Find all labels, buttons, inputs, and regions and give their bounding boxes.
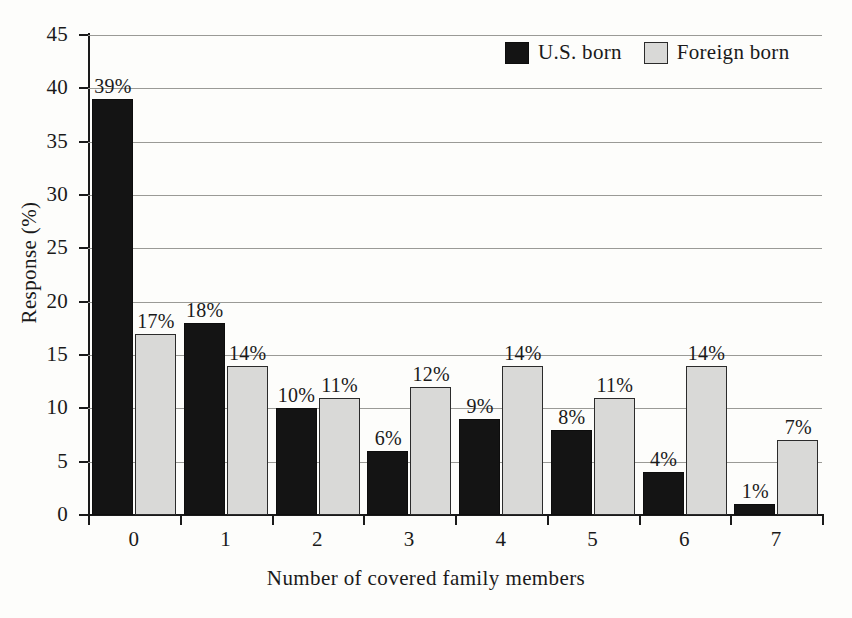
bar-foreign-born	[227, 366, 268, 515]
y-tick-mark	[79, 461, 88, 463]
x-tick-label: 7	[730, 527, 822, 552]
bar-us-born	[643, 472, 684, 515]
y-tick-label: 5	[8, 451, 68, 472]
y-tick-mark	[79, 247, 88, 249]
plot-area: 39%17%18%14%10%11%6%12%9%14%8%11%4%14%1%…	[88, 35, 822, 515]
y-tick-label: 40	[8, 77, 68, 98]
bar-value-label: 7%	[767, 417, 829, 437]
bar-us-born	[734, 504, 775, 515]
bar-value-label: 11%	[309, 375, 371, 395]
y-tick-label: 20	[8, 291, 68, 312]
bar-value-label: 14%	[676, 343, 738, 363]
bar-group: 4%14%	[639, 35, 731, 515]
bar-group: 9%14%	[455, 35, 547, 515]
bar-foreign-born	[135, 334, 176, 515]
x-tick-mark	[272, 516, 274, 525]
bar-group: 10%11%	[272, 35, 364, 515]
bar-foreign-born	[686, 366, 727, 515]
y-tick-label: 30	[8, 184, 68, 205]
bar-value-label: 18%	[174, 300, 236, 320]
y-tick-mark	[79, 194, 88, 196]
y-tick-label: 45	[8, 24, 68, 45]
bar-chart-figure: U.S. born Foreign born Response (%) Numb…	[0, 0, 852, 618]
y-tick-label: 10	[8, 397, 68, 418]
x-tick-mark	[88, 516, 90, 525]
x-tick-label: 4	[455, 527, 547, 552]
x-tick-label: 3	[363, 527, 455, 552]
bar-foreign-born	[594, 398, 635, 515]
y-axis-title: Response (%)	[17, 148, 42, 378]
bar-group: 1%7%	[730, 35, 822, 515]
y-tick-mark	[79, 354, 88, 356]
x-tick-label: 5	[547, 527, 639, 552]
bar-value-label: 11%	[584, 375, 646, 395]
y-tick-mark	[79, 34, 88, 36]
y-tick-label: 35	[8, 131, 68, 152]
x-tick-label: 0	[88, 527, 180, 552]
y-tick-label: 0	[8, 504, 68, 525]
bar-foreign-born	[502, 366, 543, 515]
bar-us-born	[276, 408, 317, 515]
bar-value-label: 39%	[82, 76, 144, 96]
y-tick-mark	[79, 301, 88, 303]
x-tick-label: 6	[638, 527, 730, 552]
bar-foreign-born	[319, 398, 360, 515]
x-tick-label: 2	[271, 527, 363, 552]
x-tick-mark	[730, 516, 732, 525]
bar-group: 6%12%	[363, 35, 455, 515]
y-tick-mark	[79, 407, 88, 409]
bar-us-born	[551, 430, 592, 515]
x-tick-mark	[180, 516, 182, 525]
y-tick-mark	[79, 514, 88, 516]
x-tick-label: 1	[180, 527, 272, 552]
y-tick-mark	[79, 141, 88, 143]
x-axis-title: Number of covered family members	[0, 566, 852, 591]
bar-us-born	[92, 99, 133, 515]
bar-foreign-born	[410, 387, 451, 515]
bar-group: 8%11%	[547, 35, 639, 515]
y-tick-label: 25	[8, 237, 68, 258]
bar-group: 39%17%	[88, 35, 180, 515]
y-tick-label: 15	[8, 344, 68, 365]
bar-value-label: 14%	[492, 343, 554, 363]
bar-value-label: 14%	[217, 343, 279, 363]
bar-us-born	[459, 419, 500, 515]
bar-foreign-born	[777, 440, 818, 515]
bar-group: 18%14%	[180, 35, 272, 515]
x-tick-mark	[639, 516, 641, 525]
x-tick-mark	[455, 516, 457, 525]
x-tick-mark	[547, 516, 549, 525]
x-tick-mark	[363, 516, 365, 525]
x-tick-mark	[822, 516, 824, 525]
bar-value-label: 12%	[400, 364, 462, 384]
bar-us-born	[367, 451, 408, 515]
